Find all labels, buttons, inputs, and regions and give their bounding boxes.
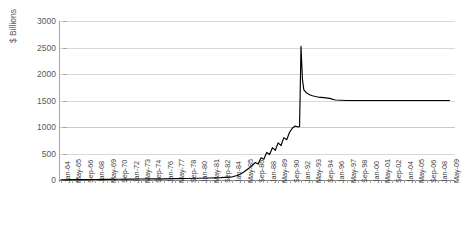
data-series-line xyxy=(0,0,465,236)
chart-container: $ Billions 050010001500200025003000 Jan-… xyxy=(0,0,465,236)
series-path xyxy=(61,46,450,179)
